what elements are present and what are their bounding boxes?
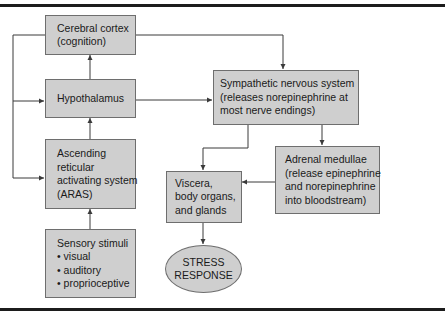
node-sensory-stimuli: Sensory stimuli • visual • auditory • pr…: [45, 229, 136, 298]
node-text: • visual: [57, 250, 135, 264]
node-text: (cognition): [57, 35, 135, 49]
node-text: into bloodstream): [285, 194, 379, 208]
node-text: most nerve endings): [220, 104, 358, 118]
node-text: • auditory: [57, 264, 135, 278]
arrow-cortex-to-sympathetic: [135, 35, 283, 69]
node-text: reticular: [57, 161, 135, 175]
node-text: Ascending: [57, 147, 135, 161]
node-stress-response: STRESS RESPONSE: [165, 245, 242, 293]
node-viscera: Viscera, body organs, and glands: [166, 171, 242, 223]
node-sympathetic-nervous-system: Sympathetic nervous system (releases nor…: [213, 70, 359, 125]
node-adrenal-medullae: Adrenal medullae (release epinephrine an…: [275, 146, 380, 214]
node-text: Sensory stimuli: [57, 237, 135, 251]
node-text: Hypothalamus: [57, 92, 135, 106]
node-text: Cerebral cortex: [57, 22, 135, 36]
node-text: activating system: [57, 174, 135, 188]
arrow-sympathetic-to-viscera: [203, 124, 248, 170]
node-aras: Ascending reticular activating system (A…: [45, 139, 136, 209]
node-text: (releases norepinephrine at: [220, 91, 358, 105]
node-text: (release epinephrine: [285, 167, 379, 181]
node-text: Sympathetic nervous system: [220, 77, 358, 91]
node-text: RESPONSE: [174, 269, 232, 282]
node-text: body organs,: [175, 190, 241, 204]
node-text: (ARAS): [57, 188, 135, 202]
node-cerebral-cortex: Cerebral cortex (cognition): [45, 15, 136, 55]
node-text: STRESS: [182, 256, 224, 269]
node-text: and norepinephrine: [285, 180, 379, 194]
node-text: • proprioceptive: [57, 277, 135, 291]
node-hypothalamus: Hypothalamus: [45, 79, 136, 118]
node-text: Viscera,: [175, 177, 241, 191]
node-text: and glands: [175, 204, 241, 218]
node-text: Adrenal medullae: [285, 153, 379, 167]
feedback-line: [13, 35, 45, 178]
